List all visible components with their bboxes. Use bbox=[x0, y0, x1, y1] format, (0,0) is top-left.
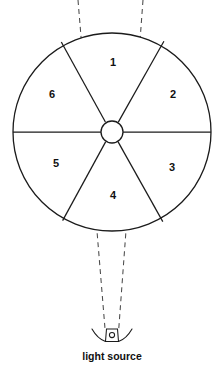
sector-label-6: 6 bbox=[49, 88, 55, 100]
sector-label-5: 5 bbox=[53, 157, 59, 169]
lamp-filament-bulb bbox=[109, 332, 114, 337]
sector-label-4: 4 bbox=[110, 189, 117, 201]
lamp-reflector-left bbox=[92, 329, 106, 342]
wheel-hub-circle bbox=[101, 121, 123, 143]
lamp-reflector-right bbox=[119, 329, 133, 342]
sector-label-2: 2 bbox=[170, 88, 176, 100]
light-source-caption: light source bbox=[82, 350, 142, 362]
light-source-glyph bbox=[92, 329, 132, 342]
light-source-wheel-figure: 1 2 3 4 5 6 light source bbox=[0, 0, 220, 369]
diagram-root: 1 2 3 4 5 6 light source bbox=[0, 0, 220, 369]
sector-label-3: 3 bbox=[169, 161, 175, 173]
sector-label-1: 1 bbox=[110, 56, 116, 68]
